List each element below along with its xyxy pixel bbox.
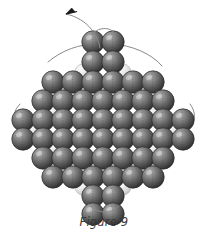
- beadwork-diagram: [0, 0, 208, 244]
- figure-container: Figure 9: [0, 0, 208, 244]
- dark-bead-layer: [12, 31, 194, 225]
- figure-caption: Figure 9: [0, 215, 208, 229]
